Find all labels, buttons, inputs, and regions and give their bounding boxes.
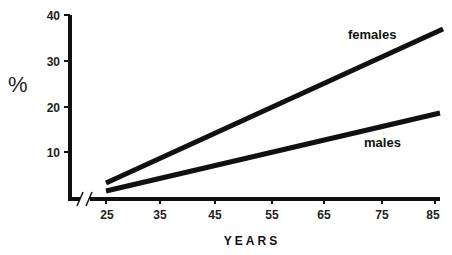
y-axis-label: % (8, 72, 28, 97)
y-tick-10: 10 (47, 146, 61, 160)
y-tick-30: 30 (47, 55, 61, 69)
y-tick-20: 20 (47, 101, 61, 115)
x-ticks: 25 35 45 55 65 75 85 (100, 199, 440, 222)
y-ticks: 40 30 20 10 (47, 9, 70, 160)
y-tick-40: 40 (47, 9, 61, 23)
males-label: males (364, 135, 401, 150)
line-chart: 40 30 20 10 % 25 35 45 55 65 75 85 YEARS… (0, 0, 452, 255)
x-tick-85: 85 (426, 208, 440, 222)
x-tick-45: 45 (208, 208, 222, 222)
males-line (106, 113, 440, 191)
females-line (106, 29, 443, 183)
females-label: females (348, 27, 396, 42)
x-tick-35: 35 (153, 208, 167, 222)
x-tick-75: 75 (375, 208, 389, 222)
x-axis (68, 192, 440, 206)
x-tick-55: 55 (265, 208, 279, 222)
x-axis-label: YEARS (224, 234, 280, 248)
x-tick-25: 25 (100, 208, 114, 222)
x-tick-65: 65 (317, 208, 331, 222)
